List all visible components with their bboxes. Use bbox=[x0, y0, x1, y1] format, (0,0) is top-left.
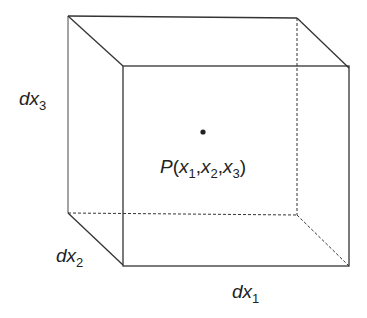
top-left-diagonal bbox=[68, 16, 123, 66]
back-bottom-hidden-edge bbox=[68, 213, 297, 215]
back-top-edge bbox=[68, 16, 297, 18]
dx1-label: dx1 bbox=[232, 281, 259, 306]
bottom-right-hidden-diagonal bbox=[297, 215, 349, 266]
volume-element-diagram: P(x1,x2,x3) dx3 dx2 dx1 bbox=[0, 0, 367, 318]
point-p-marker bbox=[200, 129, 205, 134]
point-p-label: P(x1,x2,x3) bbox=[160, 156, 246, 181]
top-right-diagonal bbox=[297, 18, 349, 68]
dx2-label: dx2 bbox=[56, 245, 83, 270]
dx3-label: dx3 bbox=[19, 88, 46, 113]
